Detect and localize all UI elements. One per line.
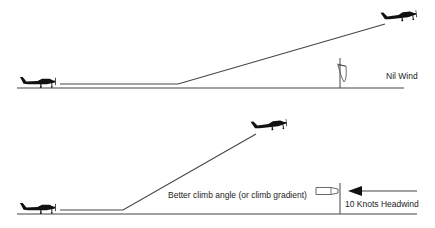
windsock-full-icon: [316, 183, 340, 214]
climb-angle-label: Better climb angle (or climb gradient): [168, 190, 307, 200]
takeoff-climb-path: [60, 24, 385, 84]
nil-wind-label: Nil Wind: [386, 71, 418, 81]
headwind-label: 10 Knots Headwind: [345, 199, 419, 209]
aircraft-climbing-icon: [251, 118, 288, 133]
windsock-limp-icon: [337, 58, 346, 88]
nil-wind-panel: [17, 9, 417, 88]
aircraft-climbing-icon: [380, 9, 417, 24]
aircraft-on-ground-icon: [20, 203, 56, 214]
headwind-arrow-icon: [348, 186, 417, 196]
aircraft-on-ground-icon: [20, 77, 56, 88]
